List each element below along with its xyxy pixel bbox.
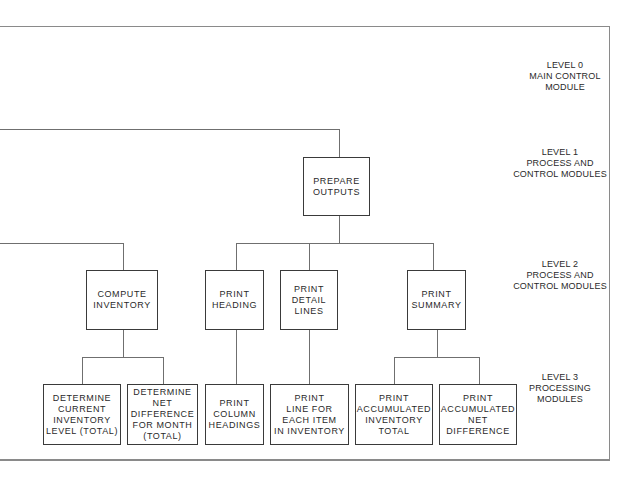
module-label: PRINT COLUMN HEADINGS (209, 398, 261, 431)
module-determine-net-difference: DETERMINE NET DIFFERENCE FOR MONTH (TOTA… (127, 384, 198, 445)
module-print-accumulated-net-difference: PRINT ACCUMULATED NET DIFFERENCE (439, 384, 517, 445)
connector (394, 357, 480, 358)
frame-top-border (0, 26, 609, 27)
connector (82, 357, 83, 384)
connector (433, 243, 434, 270)
level-0-label: LEVEL 0 MAIN CONTROL MODULE (515, 60, 615, 93)
connector (236, 243, 434, 244)
frame-bottom-border (0, 459, 610, 461)
level-2-label: LEVEL 2 PROCESS AND CONTROL MODULES (505, 259, 615, 292)
module-print-heading: PRINT HEADING (205, 270, 264, 330)
connector (309, 243, 310, 270)
module-print-accumulated-inventory-total: PRINT ACCUMULATED INVENTORY TOTAL (355, 384, 433, 445)
module-label: PRINT ACCUMULATED INVENTORY TOTAL (357, 393, 431, 437)
connector (437, 329, 438, 357)
level-1-label: LEVEL 1 PROCESS AND CONTROL MODULES (505, 147, 615, 180)
connector (394, 357, 395, 384)
connector (339, 129, 340, 157)
connector (479, 357, 480, 384)
module-label: PREPARE OUTPUTS (313, 176, 360, 198)
module-label: PRINT DETAIL LINES (292, 284, 326, 317)
module-print-detail-lines: PRINT DETAIL LINES (280, 270, 338, 330)
connector (0, 129, 340, 130)
module-compute-inventory: COMPUTE INVENTORY (86, 270, 158, 330)
connector (82, 357, 164, 358)
connector (236, 329, 237, 384)
connector (236, 243, 237, 270)
module-print-column-headings: PRINT COLUMN HEADINGS (205, 384, 264, 445)
module-label: DETERMINE CURRENT INVENTORY LEVEL (TOTAL… (46, 393, 118, 437)
module-determine-current-inventory: DETERMINE CURRENT INVENTORY LEVEL (TOTAL… (43, 384, 121, 445)
connector (339, 215, 340, 243)
connector (0, 243, 124, 244)
connector (123, 243, 124, 270)
connector (163, 357, 164, 384)
module-print-summary: PRINT SUMMARY (407, 270, 466, 330)
module-label: COMPUTE INVENTORY (93, 289, 151, 311)
module-label: DETERMINE NET DIFFERENCE FOR MONTH (TOTA… (131, 387, 195, 442)
module-label: PRINT LINE FOR EACH ITEM IN INVENTORY (274, 393, 345, 437)
module-prepare-outputs: PREPARE OUTPUTS (303, 157, 370, 216)
module-label: PRINT ACCUMULATED NET DIFFERENCE (441, 393, 515, 437)
connector (309, 329, 310, 384)
module-label: PRINT SUMMARY (411, 289, 461, 311)
module-label: PRINT HEADING (212, 289, 257, 311)
level-3-label: LEVEL 3 PROCESSING MODULES (520, 372, 600, 405)
module-print-line-each-item: PRINT LINE FOR EACH ITEM IN INVENTORY (270, 384, 349, 445)
connector (123, 329, 124, 357)
